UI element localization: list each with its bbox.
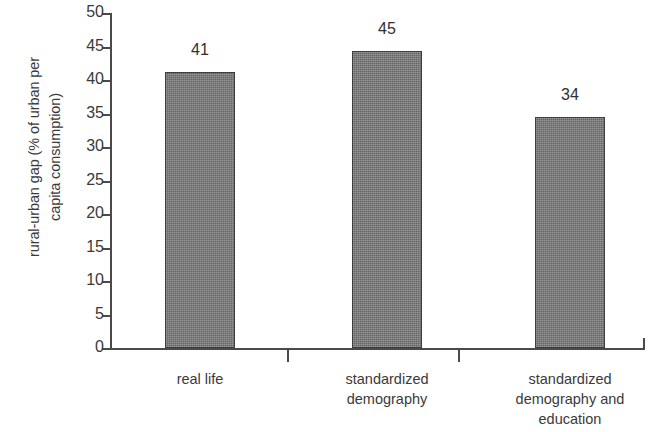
y-tick-label: 35 [86, 104, 104, 122]
y-tick-label: 5 [95, 305, 104, 323]
bar-value-label-2: 45 [352, 20, 422, 38]
bar-value-label-3: 34 [535, 86, 605, 104]
y-axis-title-line-1: rural-urban gap (% of urban per [24, 57, 45, 257]
x-axis-start-tick [110, 338, 112, 350]
plot-area: 0 5 10 15 20 25 30 35 [110, 13, 645, 348]
y-tick-label: 50 [86, 3, 104, 21]
x-axis-end-tick [643, 338, 645, 350]
y-axis-title-line-2: capita consumption) [45, 93, 66, 221]
x-axis-label-line: standardized [490, 369, 650, 389]
x-axis-line [110, 348, 645, 350]
bar-standardized-demography [352, 51, 422, 348]
bar-standardized-demography-and-education [535, 117, 605, 348]
bar-real-life [165, 72, 235, 348]
bar-value-label-1: 41 [165, 41, 235, 59]
x-axis-label-standardized-demography-and-education: standardized demography and education [490, 369, 650, 429]
y-tick-label: 0 [95, 338, 104, 356]
y-tick-label: 30 [86, 137, 104, 155]
y-tick-label: 15 [86, 238, 104, 256]
x-axis-label-line: real life [130, 369, 270, 389]
y-tick-label: 45 [86, 37, 104, 55]
x-axis-label-standardized-demography: standardized demography [307, 369, 467, 409]
x-axis-divider-tick-1 [287, 350, 289, 362]
x-axis-divider-tick-2 [458, 350, 460, 362]
x-axis-label-line: education [490, 409, 650, 429]
y-axis-line [110, 13, 112, 348]
y-tick-label: 20 [86, 204, 104, 222]
y-axis-title: rural-urban gap (% of urban per capita c… [23, 0, 67, 337]
x-axis-label-line: demography [307, 389, 467, 409]
y-tick-label: 40 [86, 70, 104, 88]
x-axis-label-line: standardized [307, 369, 467, 389]
y-tick-label: 10 [86, 271, 104, 289]
y-tick-label: 25 [86, 171, 104, 189]
x-axis-label-real-life: real life [130, 369, 270, 389]
x-axis-label-line: demography and [490, 389, 650, 409]
bar-chart: rural-urban gap (% of urban per capita c… [0, 0, 659, 432]
